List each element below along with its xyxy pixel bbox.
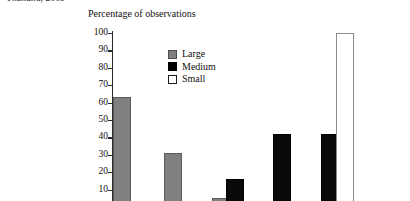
y-tick-mark [108, 50, 113, 51]
y-tick-label: 80 [86, 63, 108, 73]
bar-medium-3 [226, 179, 244, 201]
bar-large-1 [164, 153, 182, 201]
y-tick-label: 70 [86, 80, 108, 90]
y-tick-label: 90 [86, 45, 108, 55]
small-swatch [168, 75, 177, 84]
y-tick-mark [108, 155, 113, 156]
bar-large-0 [113, 97, 131, 201]
y-tick-label: 20 [86, 167, 108, 177]
legend-item-medium: Medium [168, 61, 216, 74]
y-tick-mark [108, 190, 113, 191]
y-tick-label: 60 [86, 98, 108, 108]
chart-legend: LargeMediumSmall [168, 48, 216, 86]
y-tick-mark [108, 33, 113, 34]
y-tick-label: 50 [86, 115, 108, 125]
y-tick-mark [108, 172, 113, 173]
y-tick-label: 40 [86, 132, 108, 142]
plot-area: 100908070605040302010 [0, 0, 410, 201]
y-tick-mark [108, 85, 113, 86]
legend-label: Medium [182, 61, 216, 74]
y-tick-mark [108, 120, 113, 121]
legend-label: Large [182, 48, 205, 61]
y-tick-mark [108, 68, 113, 69]
legend-label: Small [182, 73, 205, 86]
large-swatch [168, 50, 177, 59]
y-tick-label: 100 [86, 28, 108, 38]
chart-figure: Thailand, 2003 Percentage of observation… [0, 0, 410, 201]
bar-medium-4 [273, 134, 291, 201]
y-tick-label: 30 [86, 150, 108, 160]
y-tick-mark [108, 103, 113, 104]
y-tick-mark [108, 137, 113, 138]
medium-swatch [168, 62, 177, 71]
y-axis-tick-labels: 100908070605040302010 [86, 0, 108, 201]
legend-item-large: Large [168, 48, 216, 61]
y-tick-label: 10 [86, 185, 108, 195]
bar-small-6 [336, 33, 354, 201]
legend-item-small: Small [168, 73, 216, 86]
